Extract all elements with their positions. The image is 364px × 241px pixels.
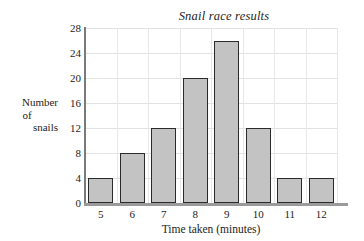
bar (183, 78, 208, 203)
y-axis-tick-label: 4 (58, 173, 81, 184)
y-axis-tick-label: 8 (58, 148, 81, 159)
bar (246, 128, 271, 203)
x-axis-tick-label: 7 (161, 208, 167, 220)
bar (277, 178, 302, 203)
y-axis-title: Number of snails (2, 96, 58, 134)
y-axis-title-line-3: snails (2, 121, 58, 134)
y-axis-title-line-2: of (2, 109, 58, 122)
y-axis-tick-label: 28 (58, 23, 81, 34)
x-axis-tick-label: 11 (284, 208, 295, 220)
x-axis-line (84, 203, 348, 206)
x-axis-title: Time taken (minutes) (85, 223, 337, 235)
y-axis-tick-label: 24 (58, 48, 81, 59)
bar-chart: Snail race results Number of snails 0481… (0, 0, 364, 241)
bar (151, 128, 176, 203)
y-axis-tick-label: 12 (58, 123, 81, 134)
x-axis-tick-labels: 56789101112 (85, 208, 337, 224)
y-axis-tick-labels: 0481216202428 (58, 28, 81, 203)
y-axis-title-line-1: Number (2, 96, 58, 109)
bars-layer (85, 28, 337, 203)
x-axis-tick-label: 12 (316, 208, 327, 220)
y-axis-tick-label: 20 (58, 73, 81, 84)
bar (309, 178, 334, 203)
y-axis-tick-label: 16 (58, 98, 81, 109)
x-axis-tick-label: 5 (98, 208, 104, 220)
bar (120, 153, 145, 203)
chart-title: Snail race results (96, 9, 352, 24)
x-axis-tick-label: 9 (224, 208, 230, 220)
bar (88, 178, 113, 203)
x-axis-tick-label: 8 (193, 208, 199, 220)
bar (214, 41, 239, 204)
x-axis-tick-label: 6 (130, 208, 136, 220)
gridline-vertical (337, 28, 338, 203)
x-axis-tick-label: 10 (253, 208, 264, 220)
y-axis-tick-label: 0 (58, 198, 81, 209)
